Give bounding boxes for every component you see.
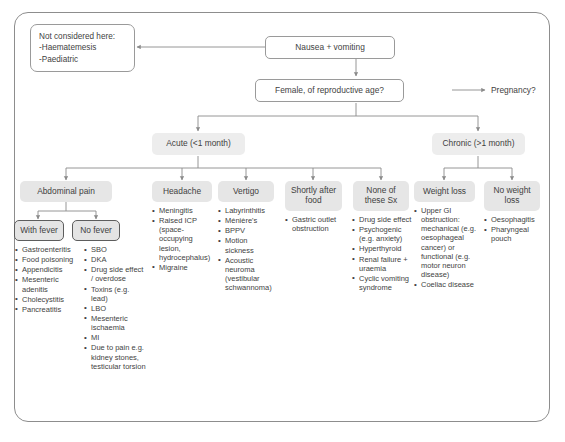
list-item: Cyclic vomiting syndrome (352, 274, 412, 292)
node-acute: Acute (<1 month) (152, 133, 245, 155)
list-item: Appendicitis (15, 265, 81, 274)
node-pregnancy: Pregnancy? (487, 82, 547, 99)
node-root: Nausea + vomiting (265, 36, 395, 59)
flowchart-canvas: Not considered here: -Haematemesis -Paed… (0, 0, 565, 442)
list-item: SBO (84, 245, 146, 254)
list-item: LBO (84, 304, 146, 313)
exclusion-note: Not considered here: -Haematemesis -Paed… (30, 24, 135, 72)
node-weight-loss: Weight loss (414, 181, 475, 202)
list-item: BPPV (218, 226, 276, 235)
list-item: Meningitis (152, 206, 210, 215)
list-headache: Meningitis Raised ICP (space-occupying l… (152, 206, 210, 273)
node-no-fever: No fever (72, 220, 120, 241)
exclusion-note-heading: Not considered here: (39, 31, 126, 42)
list-item: MI (84, 333, 146, 342)
list-no-weight-loss: Oesophagitis Pharyngeal pouch (484, 215, 539, 244)
list-item: Renal failure + uraemia (352, 255, 412, 273)
list-item: Drug side effect (352, 215, 412, 224)
list-item: Ménière's (218, 216, 276, 225)
exclusion-note-item: -Haematemesis (39, 42, 126, 53)
node-shortly-after-food: Shortly after food (285, 181, 342, 211)
list-shortly-after-food: Gastric outlet obstruction (285, 215, 343, 234)
list-weight-loss: Upper GI obstruction: mechanical (e.g. o… (414, 206, 488, 290)
list-item: Due to pain e.g. kidney stones, testicul… (84, 343, 146, 370)
exclusion-note-item: -Paediatric (39, 54, 126, 65)
list-item: Coeliac disease (414, 280, 488, 289)
list-item: Cholecystitis (15, 295, 81, 304)
node-chronic: Chronic (>1 month) (432, 133, 525, 155)
node-decision-female: Female, of reproductive age? (255, 79, 404, 102)
list-item: Migraine (152, 263, 210, 272)
list-item: Upper GI obstruction: mechanical (e.g. o… (414, 206, 488, 279)
list-item: Motion sickness (218, 236, 276, 254)
list-item: Gastroenteritis (15, 245, 81, 254)
list-item: Acoustic neuroma (vestibular schwannoma) (218, 256, 276, 293)
list-item: Gastric outlet obstruction (285, 215, 343, 233)
node-none-of-these-sx: None of these Sx (353, 181, 409, 211)
list-item: DKA (84, 255, 146, 264)
list-item: Raised ICP (space-occupying lesion, hydr… (152, 216, 210, 262)
list-item: Toxins (e.g. lead) (84, 285, 146, 303)
list-with-fever: Gastroenteritis Food poisoning Appendici… (15, 245, 81, 315)
list-item: Labyrinthitis (218, 206, 276, 215)
list-item: Mesenteric ischaemia (84, 314, 146, 332)
list-item: Pancreatitis (15, 305, 81, 314)
node-no-weight-loss: No weight loss (484, 181, 540, 211)
list-vertigo: Labyrinthitis Ménière's BPPV Motion sick… (218, 206, 276, 293)
node-vertigo: Vertigo (218, 181, 274, 202)
list-item: Oesophagitis (484, 215, 539, 224)
node-headache: Headache (152, 181, 212, 202)
node-abdominal-pain: Abdominal pain (20, 181, 112, 202)
list-none-of-these-sx: Drug side effect Psychogenic (e.g. anxie… (352, 215, 412, 293)
node-with-fever: With fever (14, 220, 64, 241)
list-no-fever: SBO DKA Drug side effect / overdose Toxi… (84, 245, 146, 372)
list-item: Pharyngeal pouch (484, 225, 539, 243)
list-item: Hyperthyroid (352, 244, 412, 253)
list-item: Mesenteric adenitis (15, 275, 81, 293)
list-item: Drug side effect / overdose (84, 265, 146, 283)
list-item: Food poisoning (15, 255, 81, 264)
list-item: Psychogenic (e.g. anxiety) (352, 225, 412, 243)
